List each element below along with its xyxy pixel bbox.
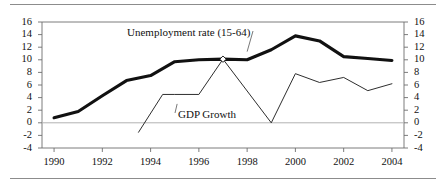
y-axis-right-tick-label: 0 xyxy=(414,117,434,128)
y-axis-left-tick-label: 10 xyxy=(12,54,32,65)
axis-ticks xyxy=(38,22,408,152)
y-axis-left-tick-label: 16 xyxy=(12,17,32,28)
y-axis-left-tick-label: -4 xyxy=(12,143,32,154)
y-axis-right-tick-label: 8 xyxy=(414,67,434,78)
x-axis-tick-label: 1992 xyxy=(82,157,122,168)
y-axis-left-tick-label: 14 xyxy=(12,29,32,40)
y-axis-right-tick-label: -4 xyxy=(414,143,434,154)
y-axis-right-tick-label: 10 xyxy=(414,54,434,65)
y-axis-left-tick-label: 8 xyxy=(12,67,32,78)
y-axis-right-tick-label: 4 xyxy=(414,92,434,103)
y-axis-left-tick-label: 0 xyxy=(12,117,32,128)
x-axis-tick-label: 2004 xyxy=(372,157,412,168)
y-axis-right-tick-label: 2 xyxy=(414,105,434,116)
figure-container: 1614121086420-2-4 1614121086420-2-4 1990… xyxy=(0,0,446,185)
x-axis-tick-label: 1998 xyxy=(227,157,267,168)
series-label-gdp: GDP Growth xyxy=(178,108,236,120)
y-axis-left-tick-label: 4 xyxy=(12,92,32,103)
y-axis-right-tick-label: 14 xyxy=(414,29,434,40)
x-axis-tick-label: 1994 xyxy=(131,157,171,168)
x-axis-tick-label: 1990 xyxy=(34,157,74,168)
y-axis-right-tick-label: 6 xyxy=(414,80,434,91)
x-axis-tick-label: 2000 xyxy=(275,157,315,168)
y-axis-right-tick-label: 12 xyxy=(414,42,434,53)
y-axis-left-tick-label: 2 xyxy=(12,105,32,116)
y-axis-left-tick-label: 12 xyxy=(12,42,32,53)
axis-frame xyxy=(42,22,404,148)
series-label-unemployment: Unemployment rate (15-64) xyxy=(127,26,250,38)
x-axis-tick-label: 2002 xyxy=(324,157,364,168)
y-axis-left-tick-label: -2 xyxy=(12,130,32,141)
y-axis-left-tick-label: 6 xyxy=(12,80,32,91)
y-axis-right-tick-label: -2 xyxy=(414,130,434,141)
y-axis-right-tick-label: 16 xyxy=(414,17,434,28)
x-axis-tick-label: 1996 xyxy=(179,157,219,168)
